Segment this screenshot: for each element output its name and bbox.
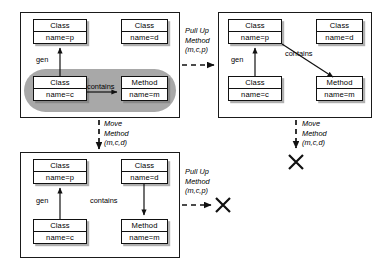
- edge-contains-tr: [282, 44, 333, 77]
- edges-overlay: [0, 0, 390, 271]
- diagram-canvas: Class name=p Class name=d Class name=c M…: [0, 0, 390, 271]
- cross-icon-move-2: [289, 155, 303, 169]
- cross-icon-pullup-2: [216, 198, 230, 212]
